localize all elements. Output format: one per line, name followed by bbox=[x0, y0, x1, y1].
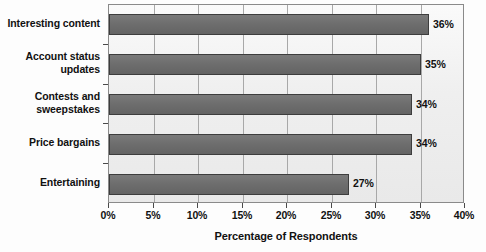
x-axis-tick bbox=[464, 203, 465, 208]
y-axis-tick bbox=[103, 163, 108, 164]
y-axis-tick bbox=[103, 84, 108, 85]
bar-value-label: 35% bbox=[425, 58, 446, 70]
x-axis-tick-label: 35% bbox=[400, 209, 440, 221]
x-axis-tick bbox=[153, 203, 154, 208]
x-axis-tick-label: 20% bbox=[266, 209, 306, 221]
y-axis-tick bbox=[103, 123, 108, 124]
category-label-line: Price bargains bbox=[0, 136, 100, 149]
x-axis-title: Percentage of Respondents bbox=[108, 230, 464, 242]
x-axis-tick-label: 25% bbox=[311, 209, 351, 221]
x-axis-tick-label: 0% bbox=[88, 209, 128, 221]
bar-value-label: 34% bbox=[416, 137, 437, 149]
bar bbox=[109, 94, 412, 115]
plot-area bbox=[108, 4, 464, 203]
category-label: Account statusupdates bbox=[0, 50, 100, 75]
bar-chart: Interesting contentAccount statusupdates… bbox=[0, 0, 486, 252]
bar-value-label: 36% bbox=[433, 18, 454, 30]
category-label-line: Interesting content bbox=[0, 17, 100, 30]
bar bbox=[109, 54, 421, 75]
category-label: Contests andsweepstakes bbox=[0, 90, 100, 115]
x-axis-tick-label: 15% bbox=[222, 209, 262, 221]
bar-value-label: 27% bbox=[353, 177, 374, 189]
bar-value-label: 34% bbox=[416, 98, 437, 110]
category-label-line: Account status bbox=[0, 50, 100, 63]
category-label-line: sweepstakes bbox=[0, 103, 100, 116]
category-label-line: Contests and bbox=[0, 90, 100, 103]
x-axis-tick bbox=[286, 203, 287, 208]
category-label: Price bargains bbox=[0, 136, 100, 149]
x-axis-tick-label: 40% bbox=[444, 209, 484, 221]
category-label-line: Entertaining bbox=[0, 176, 100, 189]
y-axis-tick bbox=[103, 44, 108, 45]
category-label: Entertaining bbox=[0, 176, 100, 189]
x-axis-tick bbox=[331, 203, 332, 208]
bar bbox=[109, 14, 429, 35]
x-axis-tick bbox=[197, 203, 198, 208]
x-axis-tick bbox=[420, 203, 421, 208]
x-axis-tick bbox=[242, 203, 243, 208]
x-axis-tick bbox=[108, 203, 109, 208]
x-axis-tick bbox=[375, 203, 376, 208]
x-axis-tick-label: 10% bbox=[177, 209, 217, 221]
bar bbox=[109, 174, 349, 195]
bars-layer bbox=[109, 5, 463, 202]
x-axis-tick-label: 30% bbox=[355, 209, 395, 221]
category-label-line: updates bbox=[0, 63, 100, 76]
bar bbox=[109, 134, 412, 155]
category-label: Interesting content bbox=[0, 17, 100, 30]
x-axis-tick-label: 5% bbox=[133, 209, 173, 221]
